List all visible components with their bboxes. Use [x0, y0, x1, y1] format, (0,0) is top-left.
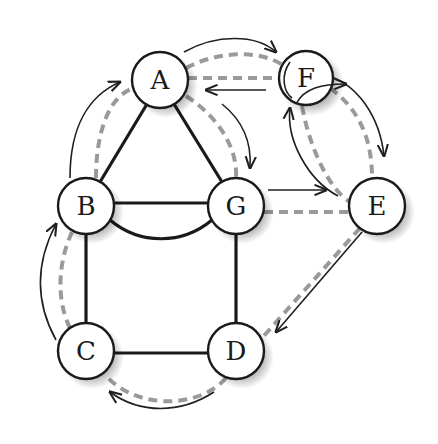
- node-f: F: [279, 51, 344, 116]
- edge-a-g: [174, 104, 222, 182]
- node-e: E: [349, 178, 415, 244]
- edge-b-g-curved: [110, 220, 212, 239]
- node-a: A: [132, 52, 198, 118]
- node-label: C: [76, 336, 96, 366]
- node-label: G: [226, 191, 247, 221]
- graph-diagram: A F B G E C D: [0, 0, 438, 444]
- node-label: A: [150, 65, 171, 95]
- node-label: D: [226, 336, 247, 366]
- node-g: G: [208, 178, 274, 244]
- node-label: B: [76, 191, 95, 221]
- node-b: B: [58, 178, 124, 244]
- node-c: C: [58, 323, 124, 389]
- node-label: E: [368, 191, 387, 221]
